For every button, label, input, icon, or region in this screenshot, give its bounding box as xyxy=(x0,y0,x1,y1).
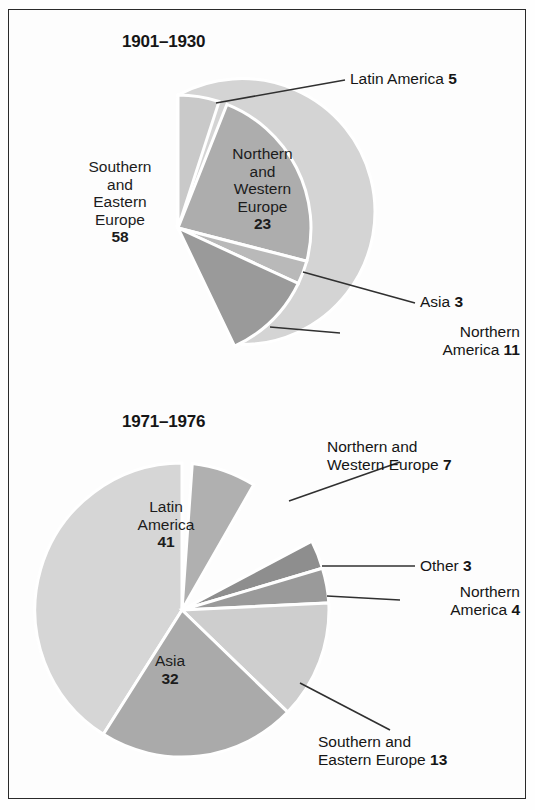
callout-northern-america-top: Northern America 11 xyxy=(315,323,520,359)
label-value: 32 xyxy=(161,670,178,687)
callout-text: Northern and xyxy=(327,438,452,456)
label-line: Europe xyxy=(210,198,315,216)
callout-text: Eastern Europe xyxy=(318,751,426,768)
label-value: 23 xyxy=(254,215,271,232)
callout-text: Northern xyxy=(315,323,520,341)
figure-root: 1901–1930 So xyxy=(0,0,535,810)
label-line: Asia xyxy=(120,652,220,670)
label-line: Europe xyxy=(62,211,178,229)
label-latin-america-bottom: Latin America 41 xyxy=(108,498,224,551)
callout-text: Asia xyxy=(420,293,450,310)
callout-value: 11 xyxy=(504,341,520,358)
pie-chart-1901-1930: 1901–1930 So xyxy=(0,0,535,408)
callout-text: Northern xyxy=(320,583,520,601)
callout-value: 3 xyxy=(463,557,472,574)
callout-text: Latin America xyxy=(350,70,444,87)
callout-southern-eastern-europe-bottom: Southern and Eastern Europe 13 xyxy=(318,733,447,769)
label-northern-western-europe-top: Northern and Western Europe 23 xyxy=(210,145,315,233)
callout-value: 13 xyxy=(430,751,447,768)
callout-asia-top: Asia 3 xyxy=(420,293,463,311)
callout-text: Other xyxy=(420,557,459,574)
callout-other-bottom: Other 3 xyxy=(420,557,472,575)
callout-value: 5 xyxy=(448,70,457,87)
label-line: Northern xyxy=(210,145,315,163)
callout-northern-western-europe-bottom: Northern and Western Europe 7 xyxy=(327,438,452,474)
label-line: and xyxy=(210,163,315,181)
label-line: America xyxy=(108,516,224,534)
callout-text: America xyxy=(442,341,499,358)
leader-southern-eastern-europe xyxy=(300,683,390,730)
callout-value: 7 xyxy=(443,456,452,473)
label-line: Southern xyxy=(62,158,178,176)
label-asia-bottom: Asia 32 xyxy=(120,652,220,687)
callout-text: America xyxy=(450,601,507,618)
label-southern-eastern-europe-top: Southern and Eastern Europe 58 xyxy=(62,158,178,246)
callout-text: Southern and xyxy=(318,733,447,751)
callout-text: Western Europe xyxy=(327,456,439,473)
callout-northern-america-bottom: Northern America 4 xyxy=(320,583,520,619)
label-line: Western xyxy=(210,180,315,198)
callout-value: 3 xyxy=(454,293,463,310)
label-line: and xyxy=(62,176,178,194)
callout-value: 4 xyxy=(511,601,520,618)
pie-chart-1971-1976: 1971–1976 xyxy=(0,400,535,810)
label-value: 58 xyxy=(111,228,128,245)
callout-latin-america-top: Latin America 5 xyxy=(350,70,457,88)
label-line: Eastern xyxy=(62,193,178,211)
label-line: Latin xyxy=(108,498,224,516)
label-value: 41 xyxy=(157,533,174,550)
